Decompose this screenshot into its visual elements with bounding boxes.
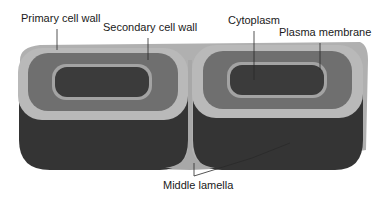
right-cytoplasm [230,65,324,95]
label-primary-cell-wall: Primary cell wall [21,13,100,24]
left-cell [18,48,188,170]
label-secondary-cell-wall: Secondary cell wall [103,22,197,33]
label-middle-lamella: Middle lamella [163,180,233,191]
label-cytoplasm: Cytoplasm [228,15,280,26]
label-plasma-membrane: Plasma membrane [279,27,371,38]
right-cell [192,45,363,170]
left-cytoplasm [55,67,149,97]
